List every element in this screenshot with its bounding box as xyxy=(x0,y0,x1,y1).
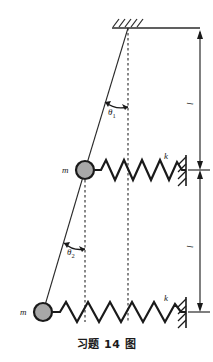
length-lower-label: l xyxy=(186,245,195,248)
spring-lower-label: k xyxy=(164,294,168,303)
spring-upper-icon xyxy=(95,160,186,180)
wall-upper-hatching xyxy=(178,157,186,186)
length-dimension-upper xyxy=(197,30,203,170)
figure-caption: 习题 14 图 xyxy=(0,335,213,351)
physics-figure: m m k k θ1 θ2 l l 习题 14 图 xyxy=(0,0,213,362)
angle-theta2-label: θ2 xyxy=(67,248,75,259)
ceiling-support xyxy=(112,19,200,28)
dimension-lower-arrow-top-icon xyxy=(197,170,203,179)
rod-lower-segment xyxy=(43,170,85,312)
rod-upper-segment xyxy=(85,28,128,170)
spring-lower-icon xyxy=(53,302,186,322)
mass-upper-icon xyxy=(76,161,94,179)
ceiling-hatching xyxy=(113,19,143,27)
length-dimension-lower xyxy=(197,170,203,312)
angle-theta1-label: θ1 xyxy=(108,108,116,119)
length-upper-label: l xyxy=(186,102,195,105)
dimension-upper-arrow-top-icon xyxy=(197,30,203,39)
mass-lower-label: m xyxy=(20,308,27,317)
figure-canvas xyxy=(0,0,213,362)
dimension-upper-arrow-bottom-icon xyxy=(197,161,203,170)
wall-lower-hatching xyxy=(178,299,186,328)
mass-upper-label: m xyxy=(62,166,69,175)
mass-lower-icon xyxy=(34,303,52,321)
dimension-lower-arrow-bottom-icon xyxy=(197,303,203,312)
spring-upper-label: k xyxy=(164,152,168,161)
